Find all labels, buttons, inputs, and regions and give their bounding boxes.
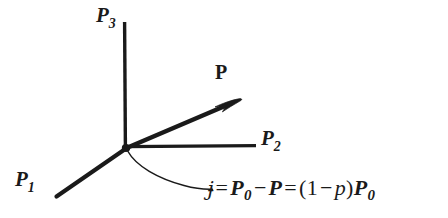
vector-label-p: P [215, 62, 227, 82]
axis-label-p1-subscript: 1 [28, 180, 35, 195]
formula-script-j: ɉ [207, 177, 214, 201]
formula-equals-1: = [214, 175, 231, 200]
formula-p0-subscript: 0 [244, 187, 252, 203]
vector-label-p-text: P [215, 61, 227, 83]
leader-line [128, 152, 213, 190]
formula-close-paren: ) [346, 175, 354, 200]
formula-p-plain: P [269, 175, 283, 200]
axis-line-p3 [125, 22, 126, 147]
formula-little-p: p [335, 175, 346, 200]
formula-minus-2: − [318, 175, 335, 200]
axis-line-p2 [126, 146, 256, 147]
axis-label-p2-subscript: 2 [274, 139, 281, 154]
vector-p-shaft [127, 103, 233, 148]
formula-open-paren: ( [299, 175, 307, 200]
axis-label-p2-letter: P [261, 126, 274, 150]
formula-p0-letter-2: P [354, 175, 368, 200]
axis-line-p1 [57, 149, 127, 197]
axis-label-p2: P2 [261, 128, 281, 149]
formula-equals-2: = [282, 175, 299, 200]
annotation-formula: ɉ=P0−P=(1−p)P0 [207, 177, 375, 199]
axis-label-p3: P3 [96, 5, 116, 26]
axis-label-p1: P1 [15, 169, 35, 190]
axis-label-p3-subscript: 3 [109, 16, 116, 31]
formula-p0-subscript-2: 0 [367, 187, 375, 203]
formula-minus-1: − [252, 175, 269, 200]
formula-one: 1 [307, 175, 318, 200]
figure-root: P3 P2 P1 P ɉ=P0−P=(1−p)P0 [0, 0, 448, 218]
axis-label-p1-letter: P [15, 167, 28, 191]
axis-label-p3-letter: P [96, 3, 109, 27]
formula-p0-letter: P [230, 175, 244, 200]
